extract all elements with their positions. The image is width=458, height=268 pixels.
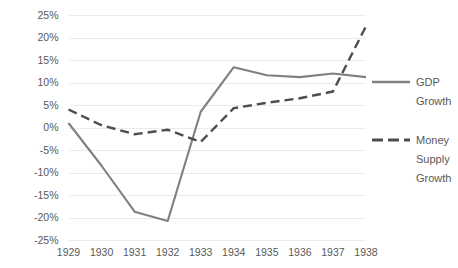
- y-axis-tick-label: 10%: [37, 76, 58, 88]
- y-axis-tick-label: 0%: [43, 121, 58, 133]
- data-series: [69, 26, 367, 221]
- chart-legend: GDPGrowthMoneySupplyGrowth: [372, 76, 451, 184]
- series-line-gdp-growth: [69, 67, 367, 221]
- x-axis-tick-label: 1931: [123, 246, 147, 258]
- chart-container: 25%20%15%10%5%0%-5%-10%-15%-20%-25% 1929…: [0, 0, 458, 268]
- y-axis-tick-label: 15%: [37, 54, 58, 66]
- y-axis-tick-label: -20%: [34, 211, 59, 223]
- y-axis-tick-label: 20%: [37, 31, 58, 43]
- legend-label: Money: [416, 134, 450, 146]
- y-axis-tick-label: -5%: [40, 144, 59, 156]
- legend-label: Supply: [416, 153, 450, 165]
- x-axis-tick-label: 1930: [90, 246, 114, 258]
- x-axis-tick-label: 1934: [222, 246, 246, 258]
- y-axis-tick-label: -15%: [34, 189, 59, 201]
- x-axis-tick-label: 1935: [255, 246, 279, 258]
- x-axis-tick-label: 1932: [156, 246, 180, 258]
- y-axis-tick-label: 5%: [43, 99, 58, 111]
- y-axis-tick-label: 25%: [37, 9, 58, 21]
- legend-label: GDP: [416, 76, 440, 88]
- series-line-money-supply-growth: [69, 26, 367, 142]
- y-axis-tick-labels: 25%20%15%10%5%0%-5%-10%-15%-20%-25%: [34, 9, 59, 246]
- line-chart: 25%20%15%10%5%0%-5%-10%-15%-20%-25% 1929…: [0, 0, 458, 268]
- y-axis-tick-label: -25%: [34, 234, 59, 246]
- y-axis-tick-label: -10%: [34, 166, 59, 178]
- legend-label: Growth: [416, 172, 451, 184]
- x-axis-tick-label: 1929: [57, 246, 81, 258]
- x-axis-tick-label: 1933: [189, 246, 213, 258]
- x-axis-tick-label: 1937: [321, 246, 345, 258]
- x-axis-tick-label: 1938: [354, 246, 378, 258]
- x-axis-tick-labels: 1929193019311932193319341935193619371938: [57, 246, 378, 258]
- x-axis-tick-label: 1936: [288, 246, 312, 258]
- legend-label: Growth: [416, 95, 451, 107]
